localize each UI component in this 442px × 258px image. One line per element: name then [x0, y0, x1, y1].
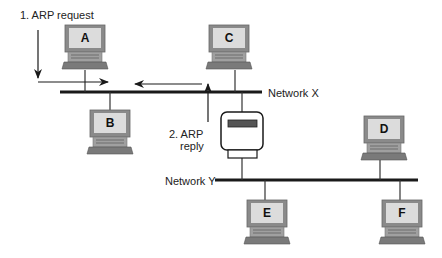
router-icon — [221, 112, 263, 158]
host-e-label: E — [263, 206, 271, 220]
host-d-label: D — [380, 122, 389, 136]
arp-reply-arrow — [135, 84, 208, 122]
host-b-label: B — [106, 116, 115, 130]
arp-reply-label-line2: reply — [180, 140, 204, 152]
network-diagram: A B C D E F — [0, 0, 442, 258]
host-c-label: C — [225, 31, 234, 45]
host-e: E — [244, 200, 290, 244]
host-b: B — [87, 110, 133, 154]
host-a: A — [62, 25, 108, 69]
host-f: F — [379, 200, 425, 244]
host-a-label: A — [81, 31, 90, 45]
arp-reply-label-line1: 2. ARP — [169, 128, 203, 140]
network-x-label: Network X — [268, 87, 319, 99]
host-f-label: F — [398, 206, 405, 220]
network-y-label: Network Y — [165, 175, 216, 187]
host-c: C — [206, 25, 252, 69]
host-d: D — [361, 116, 407, 160]
arp-request-label: 1. ARP request — [20, 9, 94, 21]
